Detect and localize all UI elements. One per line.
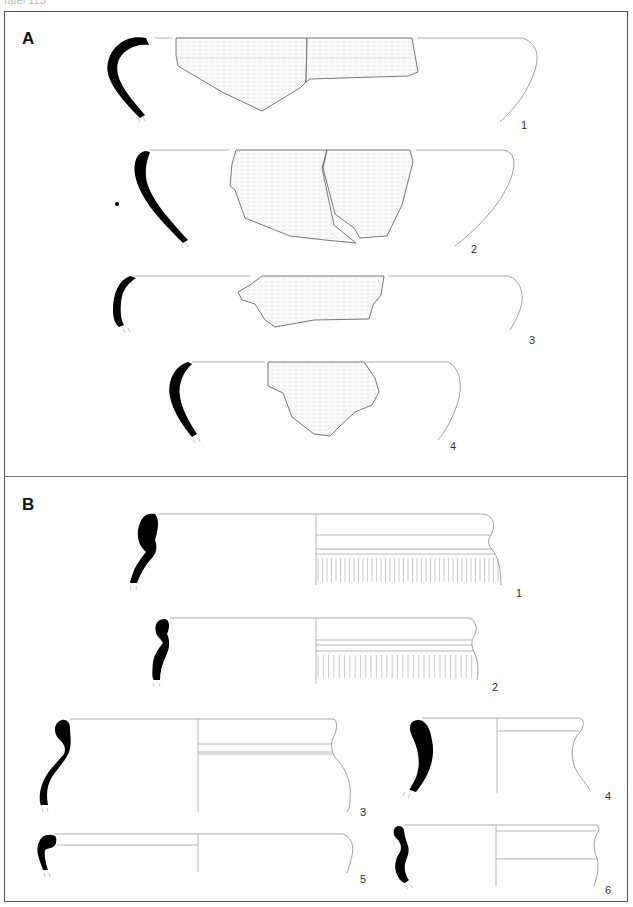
a2-sherd-right bbox=[323, 150, 413, 238]
a4-sherd bbox=[268, 362, 379, 436]
a1-sherd-left bbox=[176, 38, 307, 111]
b2-exterior-outline bbox=[470, 618, 478, 680]
b1-profile-section bbox=[130, 514, 158, 583]
a2-exterior-outline bbox=[455, 150, 514, 246]
a1-profile-section bbox=[107, 37, 149, 118]
a4-profile-section bbox=[169, 362, 197, 437]
b1-exterior-outline bbox=[484, 514, 501, 585]
figure-a4 bbox=[169, 362, 460, 440]
figure-b1 bbox=[130, 514, 501, 585]
b2-profile-section bbox=[152, 619, 169, 680]
a4-exterior-outline bbox=[438, 362, 460, 440]
b3-exterior-outline bbox=[331, 719, 350, 812]
figure-b3 bbox=[40, 719, 351, 812]
a3-sherd bbox=[238, 276, 384, 327]
a1-exterior-outline bbox=[500, 38, 537, 122]
a3-profile-section bbox=[113, 276, 136, 327]
figure-b5 bbox=[38, 834, 353, 873]
a2-profile-section bbox=[134, 151, 188, 243]
b5-profile-section bbox=[38, 835, 57, 870]
b6-exterior-outline bbox=[594, 825, 599, 886]
figure-b4 bbox=[410, 718, 590, 793]
b1-fluting bbox=[318, 558, 498, 582]
b2-fluting bbox=[318, 655, 472, 678]
figure-a3 bbox=[113, 276, 522, 330]
a1-sherd-right bbox=[306, 38, 418, 82]
a3-exterior-outline bbox=[508, 276, 522, 330]
b4-profile-section bbox=[410, 720, 433, 792]
a2-dot bbox=[115, 202, 119, 206]
figure-b6 bbox=[394, 825, 599, 886]
b6-profile-section bbox=[394, 826, 409, 883]
figure-a1 bbox=[107, 37, 537, 122]
b4-exterior-outline bbox=[572, 718, 590, 790]
pottery-drawings bbox=[0, 0, 633, 907]
b5-exterior-outline bbox=[343, 834, 353, 873]
figure-a2 bbox=[115, 150, 514, 246]
figure-b2 bbox=[152, 618, 478, 684]
b3-profile-section bbox=[40, 720, 71, 806]
